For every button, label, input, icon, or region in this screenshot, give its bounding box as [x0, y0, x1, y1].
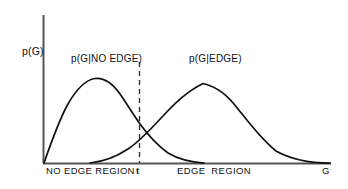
curve-label-edge: p(G|EDGE): [189, 54, 242, 64]
y-axis-label: p(G): [22, 46, 44, 57]
edge-probability-figure: p(G) p(G|NO EDGE) p(G|EDGE) NO EDGE REGI…: [0, 0, 348, 189]
threshold-label: t: [136, 166, 139, 176]
region-label-no-edge: NO EDGE REGION: [46, 166, 135, 176]
curve-p-g-given-edge: [90, 84, 330, 164]
region-label-edge: EDGE REGION: [177, 166, 251, 176]
x-axis-label: G: [322, 166, 330, 176]
curve-label-no-edge: p(G|NO EDGE): [71, 54, 142, 64]
curve-p-g-given-no-edge: [44, 78, 204, 163]
figure-canvas: [0, 0, 348, 189]
